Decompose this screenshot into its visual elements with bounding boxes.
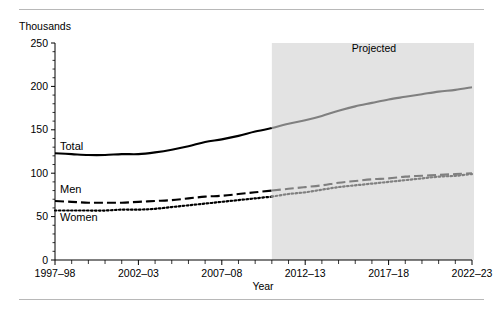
x-tick-label: 2002–03 <box>118 267 159 279</box>
x-axis-title: Year <box>252 280 274 292</box>
y-axis: 050100150200250 <box>30 37 55 266</box>
x-axis: 1997–982002–032007–082012–132017–182022–… <box>35 260 493 292</box>
y-tick-label: 100 <box>30 167 48 179</box>
series-line-total <box>55 128 272 155</box>
y-tick-label: 200 <box>30 80 48 92</box>
y-tick-label: 250 <box>30 37 48 49</box>
projected-region: Projected <box>272 42 474 260</box>
figure: Thousands Projected 050100150200250 1997… <box>0 0 503 313</box>
y-tick-label: 50 <box>36 210 48 222</box>
x-tick-label: 2012–13 <box>285 267 326 279</box>
projected-label: Projected <box>352 42 397 54</box>
x-tick-label: 2007–08 <box>201 267 242 279</box>
y-tick-label: 0 <box>42 254 48 266</box>
y-tick-label: 150 <box>30 123 48 135</box>
series-label-men: Men <box>60 183 81 195</box>
line-chart: Projected 050100150200250 1997–982002–03… <box>0 0 503 313</box>
x-tick-label: 1997–98 <box>35 267 76 279</box>
x-tick-label: 2017–18 <box>368 267 409 279</box>
series-label-group: TotalMenWomen <box>60 140 98 223</box>
series-label-women: Women <box>60 211 98 223</box>
x-tick-label: 2022–23 <box>452 267 493 279</box>
series-label-total: Total <box>60 140 83 152</box>
